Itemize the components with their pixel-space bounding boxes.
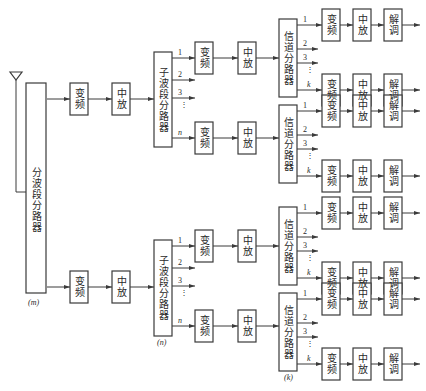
- port-3: 3: [178, 276, 182, 285]
- demod-a1-1-label: 解调: [384, 9, 402, 41]
- arrowhead-icon: [312, 133, 318, 137]
- if-amp-stage2-b1-label: 中放: [238, 230, 256, 262]
- channel-tag: (k): [284, 373, 293, 382]
- sub-band-tag: (n): [157, 338, 166, 347]
- port-ellipsis: ⋮: [180, 100, 188, 109]
- arrowhead-icon: [312, 235, 318, 239]
- arrowhead-icon: [189, 78, 195, 82]
- freq-conv-stage3-an-1-label: 变频: [322, 95, 340, 127]
- arrowhead-icon: [414, 297, 420, 301]
- freq-conv-stage3-bn-k-label: 变频: [322, 348, 340, 380]
- if-amp-stage3-a1-1-label: 中放: [353, 9, 371, 41]
- ch-port-3: 3: [303, 139, 307, 148]
- ch-port-ellipsis: ⋮: [306, 253, 314, 262]
- ch-port-2: 2: [303, 125, 307, 134]
- freq-conv-stage3-b1-1-label: 变频: [322, 197, 340, 229]
- if-amp-stage3-bn-k-label: 中放: [353, 348, 371, 380]
- port-ellipsis: ⋮: [180, 288, 188, 297]
- diagram-lines: [0, 0, 426, 391]
- arrowhead-icon: [312, 321, 318, 325]
- ch-port-1: 1: [303, 101, 307, 110]
- main-splitter-tag: (m): [28, 298, 39, 307]
- if-amp-stage3-an-1-label: 中放: [353, 95, 371, 127]
- ch-port-3: 3: [303, 241, 307, 250]
- ch-port-ellipsis: ⋮: [306, 65, 314, 74]
- freq-conv-stage1-b-label: 变频: [70, 271, 88, 303]
- freq-conv-stage1-a-label: 变频: [70, 83, 88, 115]
- sub-band-splitter-b-label: 子波段分路器: [154, 240, 172, 336]
- ch-port-k: k: [307, 354, 311, 363]
- ch-port-2: 2: [303, 227, 307, 236]
- arrowhead-icon: [414, 276, 420, 280]
- arrowhead-icon: [414, 211, 420, 215]
- demod-bn-k-label: 解调: [384, 348, 402, 380]
- arrowhead-icon: [312, 47, 318, 51]
- channel-splitter-an-label: 信道分路器: [279, 105, 297, 183]
- port-1: 1: [178, 48, 182, 57]
- if-amp-stage1-b-label: 中放: [112, 271, 130, 303]
- ch-port-k: k: [307, 166, 311, 175]
- freq-conv-stage2-bn-label: 变频: [195, 310, 213, 342]
- arrowhead-icon: [414, 109, 420, 113]
- arrowhead-icon: [414, 88, 420, 92]
- port-3: 3: [178, 88, 182, 97]
- ch-port-k: k: [307, 268, 311, 277]
- arrowhead-icon: [189, 284, 195, 288]
- ch-port-1: 1: [303, 15, 307, 24]
- ch-port-1: 1: [303, 289, 307, 298]
- channel-splitter-b1-label: 信道分路器: [279, 207, 297, 285]
- demod-bn-1-label: 解调: [384, 283, 402, 315]
- antenna-icon: [10, 72, 22, 80]
- port-2: 2: [178, 258, 182, 267]
- port-1: 1: [178, 236, 182, 245]
- if-amp-stage3-b1-1-label: 中放: [353, 197, 371, 229]
- receiver-block-diagram: 分波段分路器(m)变频中放子波段分路器变频中放子波段分路器(n)123⋮n123…: [0, 0, 426, 391]
- sub-band-splitter-a-label: 子波段分路器: [154, 52, 172, 147]
- if-amp-stage3-an-k-label: 中放: [353, 160, 371, 192]
- main-splitter-label: 分波段分路器: [26, 150, 46, 250]
- demod-an-1-label: 解调: [384, 95, 402, 127]
- freq-conv-stage3-a1-1-label: 变频: [322, 9, 340, 41]
- freq-conv-stage3-bn-1-label: 变频: [322, 283, 340, 315]
- demod-an-k-label: 解调: [384, 160, 402, 192]
- channel-splitter-a1-label: 信道分路器: [279, 19, 297, 97]
- channel-splitter-bn-label: 信道分路器: [279, 293, 297, 371]
- ch-port-2: 2: [303, 313, 307, 322]
- arrowhead-icon: [414, 362, 420, 366]
- if-amp-stage3-bn-1-label: 中放: [353, 283, 371, 315]
- if-amp-stage1-a-label: 中放: [112, 83, 130, 115]
- freq-conv-stage2-a1-label: 变频: [195, 42, 213, 74]
- freq-conv-stage2-b1-label: 变频: [195, 230, 213, 262]
- ch-port-ellipsis: ⋮: [306, 151, 314, 160]
- ch-port-k: k: [307, 80, 311, 89]
- port-2: 2: [178, 70, 182, 79]
- if-amp-stage2-a1-label: 中放: [238, 42, 256, 74]
- port-n: n: [178, 316, 182, 325]
- ch-port-1: 1: [303, 203, 307, 212]
- if-amp-stage2-bn-label: 中放: [238, 310, 256, 342]
- if-amp-stage2-an-label: 中放: [238, 122, 256, 154]
- arrowhead-icon: [414, 174, 420, 178]
- arrowhead-icon: [189, 96, 195, 100]
- ch-port-3: 3: [303, 327, 307, 336]
- ch-port-3: 3: [303, 53, 307, 62]
- freq-conv-stage3-an-k-label: 变频: [322, 160, 340, 192]
- ch-port-2: 2: [303, 39, 307, 48]
- arrowhead-icon: [414, 23, 420, 27]
- arrowhead-icon: [189, 266, 195, 270]
- ch-port-ellipsis: ⋮: [306, 339, 314, 348]
- freq-conv-stage2-an-label: 变频: [195, 122, 213, 154]
- port-n: n: [178, 128, 182, 137]
- demod-b1-1-label: 解调: [384, 197, 402, 229]
